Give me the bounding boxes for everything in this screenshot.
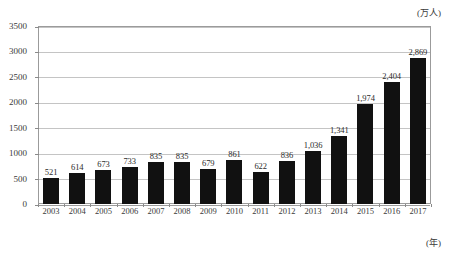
y-axis-tick-label: 500 [14, 174, 28, 184]
gridline [39, 52, 430, 53]
y-axis-tick [35, 179, 39, 180]
gridline [39, 128, 430, 129]
x-axis-tick-label: 2014 [331, 206, 348, 216]
gridline [39, 103, 430, 104]
y-axis-tick [35, 27, 39, 28]
x-axis-tick-label: 2003 [43, 206, 60, 216]
x-axis-tick-label: 2017 [409, 206, 426, 216]
y-axis-tick-label: 2000 [9, 97, 27, 107]
x-axis-tick-label: 2004 [69, 206, 86, 216]
x-axis-tick-label: 2011 [252, 206, 269, 216]
y-axis-tick-label: 3000 [9, 46, 27, 56]
y-axis-unit-label: (万人) [417, 6, 441, 19]
y-axis-tick [35, 103, 39, 104]
y-axis-tick-label: 0 [23, 199, 28, 209]
plot-area [38, 26, 431, 204]
x-axis-tick-label: 2010 [226, 206, 243, 216]
x-axis-tick-label: 2008 [174, 206, 191, 216]
x-axis-tick-labels: 2003200420052006200720082009201020112012… [38, 206, 431, 224]
y-axis-tick-label: 2500 [9, 72, 27, 82]
x-axis-tick-label: 2012 [278, 206, 295, 216]
x-axis-tick-label: 2009 [200, 206, 217, 216]
gridline [39, 179, 430, 180]
y-axis-tick [35, 128, 39, 129]
y-axis-tick [35, 52, 39, 53]
x-axis-tick-label: 2007 [147, 206, 164, 216]
gridline [39, 154, 430, 155]
y-axis-tick [35, 154, 39, 155]
x-axis-unit-label: (年) [426, 236, 441, 249]
x-axis-tick-label: 2006 [121, 206, 138, 216]
x-axis-tick-label: 2015 [357, 206, 374, 216]
y-axis-tick-label: 3500 [9, 21, 27, 31]
gridline [39, 77, 430, 78]
gridline [39, 27, 430, 28]
y-axis-tick [35, 77, 39, 78]
x-axis-tick-label: 2005 [95, 206, 112, 216]
bar-chart: (万人) 0500100015002000250030003500 521614… [0, 0, 449, 253]
x-axis-tick [431, 204, 432, 207]
y-axis-tick-label: 1500 [9, 123, 27, 133]
x-axis-tick-label: 2013 [305, 206, 322, 216]
x-axis-tick-label: 2016 [383, 206, 400, 216]
y-axis-tick-label: 1000 [9, 148, 27, 158]
